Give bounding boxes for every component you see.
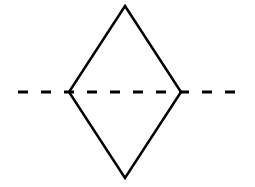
- filter-symbol: [0, 0, 255, 187]
